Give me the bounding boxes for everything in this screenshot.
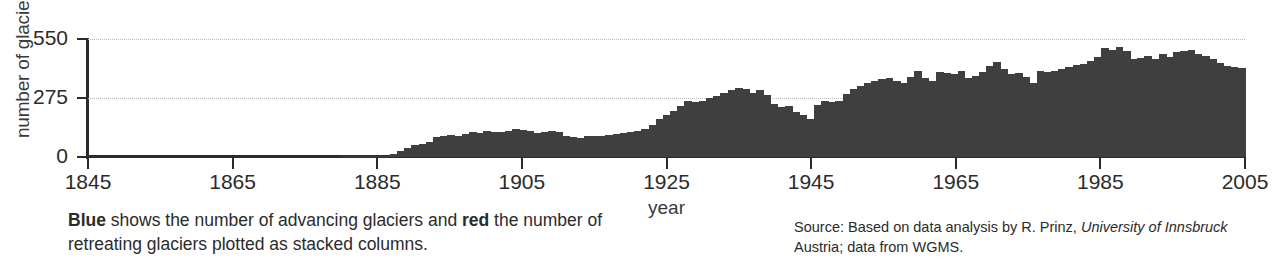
caption-bold-blue: Blue [68,210,106,230]
source-lead: Source: Based on data analysis by R. Pri… [794,219,1081,235]
x-tick-mark [376,158,378,169]
y-tick-label: 275 [33,85,68,109]
x-tick-mark [810,158,812,169]
plot-region [88,39,1245,157]
x-tick-mark [1099,158,1101,169]
caption-text-1: shows the number of advancing glaciers a… [106,210,462,230]
y-tick-label: 0 [56,144,68,168]
y-tick-mark [77,38,88,40]
x-tick-label: 1845 [65,170,112,194]
x-tick-mark [666,158,668,169]
x-tick-mark [1244,158,1246,169]
source-institution: University of Innsbruck [1081,219,1228,235]
x-tick-label: 1865 [209,170,256,194]
x-tick-label: 1925 [643,170,690,194]
x-axis-label: year [648,197,685,219]
x-tick-mark [521,158,523,169]
glacier-figure: number of glaciers 0275550 1845186518851… [0,0,1285,269]
y-tick-mark [77,97,88,99]
x-tick-mark [232,158,234,169]
y-tick-label: 550 [33,26,68,50]
source-tail: Austria; data from WGMS. [794,239,963,255]
bar [1238,68,1246,157]
x-tick-label: 1905 [499,170,546,194]
figure-source: Source: Based on data analysis by R. Pri… [794,218,1264,257]
caption-bold-red: red [462,210,489,230]
chart-area: number of glaciers 0275550 1845186518851… [0,0,1285,200]
gridline-550 [88,39,1245,40]
figure-caption: Blue shows the number of advancing glaci… [68,208,628,256]
y-axis-label: number of glaciers [12,0,34,138]
x-tick-label: 1965 [932,170,979,194]
x-tick-label: 1985 [1077,170,1124,194]
x-tick-label: 1885 [354,170,401,194]
x-tick-mark [955,158,957,169]
x-tick-label: 1945 [788,170,835,194]
x-tick-label: 2005 [1222,170,1269,194]
x-tick-mark [87,158,89,169]
